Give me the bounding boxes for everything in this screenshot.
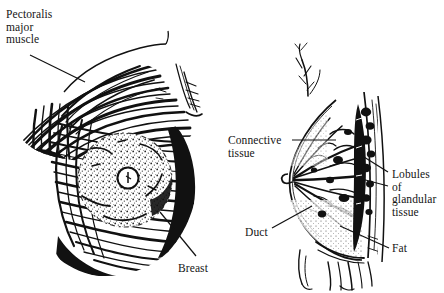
label-connective-tissue: Connective tissue (228, 134, 281, 159)
label-duct: Duct (245, 226, 268, 239)
label-lobules-of-glandular-tissue: Lobules of glandular tissue (392, 168, 436, 218)
label-pectoralis-major-muscle: Pectoralis major muscle (6, 8, 52, 46)
label-breast: Breast (178, 262, 208, 275)
breast-anatomy-illustration (0, 0, 444, 293)
nipple (118, 168, 139, 189)
label-fat: Fat (392, 242, 407, 255)
